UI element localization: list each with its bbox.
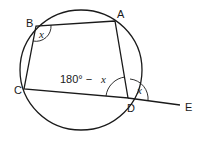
point-label-d: D [127,102,135,114]
line-de [128,98,180,105]
point-label-b: B [26,17,33,29]
angle-label-b: x [38,28,44,40]
point-label-e: E [185,101,192,113]
angle-label-adc-num: 180° − [60,73,92,85]
point-label-c: C [14,84,22,96]
point-label-a: A [117,8,125,20]
cyclic-quadrilateral-diagram: A B C D E x 180° − x x [0,0,204,145]
angle-label-ade: x [136,84,142,96]
angle-label-adc-var: x [100,73,106,85]
angle-arc-adc [106,77,125,96]
